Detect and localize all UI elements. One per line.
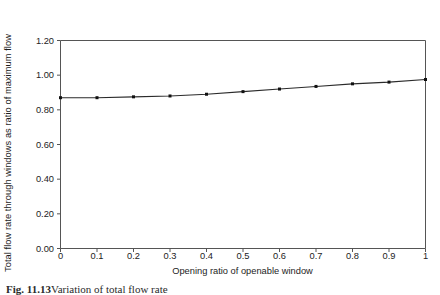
x-tick-label: 1 [411, 251, 440, 261]
figure-caption: Fig. 11.13Variation of total flow rate [6, 283, 168, 295]
y-tick-label: 0.60 [26, 140, 54, 150]
x-tick-label: 0.4 [192, 251, 222, 261]
data-point-markers [59, 78, 427, 99]
y-tick-label: 0.20 [26, 209, 54, 219]
x-tick-label: 0.5 [228, 251, 258, 261]
figure-caption-label: Fig. 11.13 [6, 283, 51, 295]
x-tick-label: 0.7 [301, 251, 331, 261]
y-tick-label: 1.20 [26, 36, 54, 46]
data-series-line [61, 80, 426, 98]
x-tick-label: 0.1 [82, 251, 112, 261]
axes-frame [61, 41, 426, 249]
y-tick-label: 1.00 [26, 70, 54, 80]
x-tick-label: 0.3 [155, 251, 185, 261]
x-tick-label: 0 [46, 251, 76, 261]
x-tick-label: 0.6 [265, 251, 295, 261]
figure-caption-text: Variation of total flow rate [51, 283, 168, 295]
y-axis-title: Total flow rate through windows as ratio… [3, 34, 13, 272]
y-tick-label: 0.80 [26, 105, 54, 115]
axis-tick-marks [57, 41, 426, 253]
y-tick-label: 0.40 [26, 174, 54, 184]
x-axis-title: Opening ratio of openable window [60, 266, 425, 276]
x-tick-label: 0.8 [338, 251, 368, 261]
x-tick-label: 0.9 [374, 251, 404, 261]
figure-container: Total flow rate through windows as ratio… [0, 0, 440, 295]
x-tick-label: 0.2 [119, 251, 149, 261]
y-axis-title-wrap: Total flow rate through windows as ratio… [0, 0, 22, 278]
